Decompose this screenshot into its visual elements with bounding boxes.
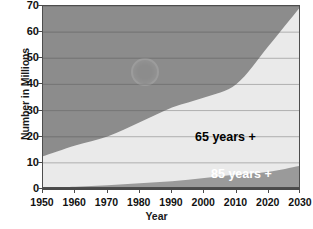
x-tick-mark — [74, 188, 75, 193]
y-axis-tick-labels: 706050403020100 — [14, 5, 39, 188]
x-tick-mark — [139, 188, 140, 193]
chart-container: Number in Millions 706050403020100 65 ye… — [0, 0, 313, 229]
y-tick-mark — [38, 136, 42, 137]
x-tick-mark — [107, 188, 108, 193]
x-tick-mark — [299, 188, 300, 193]
y-tick-mark — [38, 57, 42, 58]
y-tick-label: 40 — [14, 77, 39, 89]
y-tick-mark — [38, 31, 42, 32]
y-tick-label: 20 — [14, 130, 39, 142]
x-axis-title: Year — [0, 210, 313, 222]
y-tick-mark — [38, 83, 42, 84]
y-tick-mark — [38, 5, 42, 6]
y-tick-label: 70 — [14, 0, 39, 11]
y-tick-label: 0 — [14, 182, 39, 194]
x-tick-mark — [203, 188, 204, 193]
y-tick-label: 30 — [14, 104, 39, 116]
y-tick-label: 60 — [14, 25, 39, 37]
x-tick-label: 2030 — [280, 196, 313, 208]
area-chart-svg — [43, 6, 300, 188]
series-label-65-years-plus: 65 years + — [195, 130, 256, 144]
area-series-65-years-plus — [43, 6, 300, 188]
y-tick-label: 10 — [14, 156, 39, 168]
x-tick-mark — [42, 188, 43, 193]
plot-area: 65 years + 85 years + — [42, 5, 300, 188]
x-tick-mark — [268, 188, 269, 193]
x-tick-mark — [236, 188, 237, 193]
y-tick-mark — [38, 162, 42, 163]
y-tick-label: 50 — [14, 51, 39, 63]
x-tick-mark — [171, 188, 172, 193]
series-label-85-years-plus: 85 years + — [211, 167, 272, 181]
y-tick-mark — [38, 110, 42, 111]
